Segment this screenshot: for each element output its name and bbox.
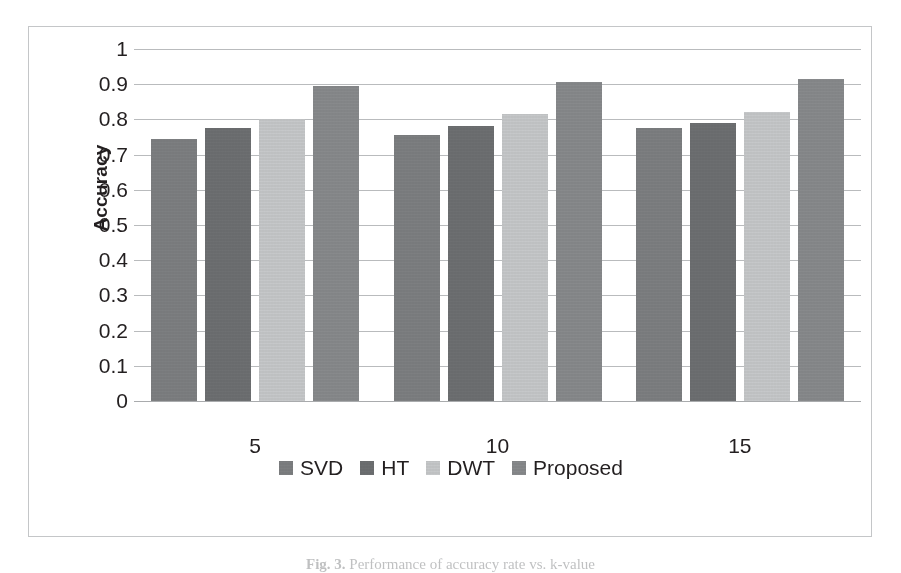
bar-proposed-5 (313, 86, 359, 401)
bar-texture (151, 139, 197, 401)
bar-proposed-15 (798, 79, 844, 401)
x-axis-tick-label: 15 (728, 435, 751, 457)
y-axis-tick-label: 0.1 (70, 355, 128, 376)
legend-label: SVD (300, 457, 343, 478)
bar-texture (798, 79, 844, 401)
legend-swatch-texture (512, 461, 526, 475)
bar-texture (744, 112, 790, 401)
legend-swatch-texture (360, 461, 374, 475)
y-axis-tick-label: 0.9 (70, 73, 128, 94)
gridline (134, 49, 861, 50)
legend-item-ht[interactable]: HT (360, 457, 409, 478)
bar-texture (205, 128, 251, 401)
y-axis-tick-label: 0.5 (70, 214, 128, 235)
y-axis-tick-label: 0.4 (70, 249, 128, 270)
y-axis-tick-label: 0.7 (70, 144, 128, 165)
legend-label: HT (381, 457, 409, 478)
bar-texture (636, 128, 682, 401)
axis-baseline (134, 401, 861, 402)
caption-text: Performance of accuracy rate vs. k-value (349, 556, 595, 572)
figure-caption: Fig. 3. Performance of accuracy rate vs.… (0, 556, 901, 573)
bar-texture (394, 135, 440, 401)
legend-swatch-texture (426, 461, 440, 475)
legend-swatch-texture (279, 461, 293, 475)
plot-area (134, 49, 861, 401)
bar-dwt-15 (744, 112, 790, 401)
gridline (134, 84, 861, 85)
bar-texture (502, 114, 548, 401)
x-axis-tick-label: 10 (486, 435, 509, 457)
chart-legend: SVDHTDWTProposed (29, 457, 873, 478)
bar-texture (313, 86, 359, 401)
bar-texture (259, 119, 305, 401)
y-axis-tick-label: 0.8 (70, 108, 128, 129)
bar-ht-10 (448, 126, 494, 401)
legend-swatch-icon (426, 461, 440, 475)
bar-svd-10 (394, 135, 440, 401)
caption-number: Fig. 3. (306, 556, 349, 572)
y-axis-tick-label: 0.2 (70, 320, 128, 341)
y-axis-tick-labels: 10.90.80.70.60.50.40.30.20.10 (62, 49, 128, 401)
y-axis-tick-label: 0 (70, 390, 128, 411)
legend-item-dwt[interactable]: DWT (426, 457, 495, 478)
bar-texture (448, 126, 494, 401)
bar-svd-5 (151, 139, 197, 401)
bar-dwt-10 (502, 114, 548, 401)
y-axis-tick-label: 0.3 (70, 284, 128, 305)
bar-ht-5 (205, 128, 251, 401)
bar-texture (556, 82, 602, 401)
bar-proposed-10 (556, 82, 602, 401)
legend-label: DWT (447, 457, 495, 478)
legend-swatch-icon (360, 461, 374, 475)
x-axis-tick-labels: 51015 (134, 425, 861, 459)
bar-ht-15 (690, 123, 736, 401)
y-axis-tick-label: 0.6 (70, 179, 128, 200)
legend-item-svd[interactable]: SVD (279, 457, 343, 478)
bar-texture (690, 123, 736, 401)
x-axis-tick-label: 5 (249, 435, 261, 457)
legend-swatch-icon (279, 461, 293, 475)
bar-dwt-5 (259, 119, 305, 401)
figure-frame: Accuracy 10.90.80.70.60.50.40.30.20.10 5… (28, 26, 872, 537)
legend-item-proposed[interactable]: Proposed (512, 457, 623, 478)
bar-svd-15 (636, 128, 682, 401)
y-axis-tick-label: 1 (70, 38, 128, 59)
legend-label: Proposed (533, 457, 623, 478)
legend-swatch-icon (512, 461, 526, 475)
